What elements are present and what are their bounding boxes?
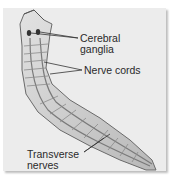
- label-cerebral-ganglia: Cerebral ganglia: [80, 33, 120, 55]
- label-transverse-nerves: Transverse nerves: [27, 149, 79, 171]
- ganglion-left: [27, 30, 31, 36]
- label-nerve-cords: Nerve cords: [84, 65, 141, 76]
